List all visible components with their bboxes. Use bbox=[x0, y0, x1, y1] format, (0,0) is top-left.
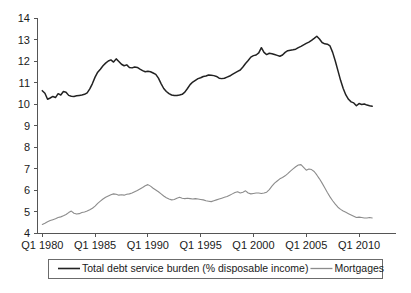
line-chart: 4567891011121314 Q1 1980Q1 1985Q1 1990Q1… bbox=[0, 0, 411, 293]
x-tick-label: Q1 1980 bbox=[21, 239, 63, 251]
y-tick-label: 5 bbox=[24, 206, 30, 218]
y-tick-label: 13 bbox=[18, 34, 30, 46]
y-tick-label: 6 bbox=[24, 184, 30, 196]
y-axis: 4567891011121314 bbox=[18, 12, 37, 239]
legend-label-mortgages: Mortgages bbox=[334, 262, 384, 274]
y-tick-label: 4 bbox=[24, 227, 30, 239]
x-axis: Q1 1980Q1 1985Q1 1990Q1 1995Q1 2000Q1 20… bbox=[21, 233, 396, 251]
chart-container: 4567891011121314 Q1 1980Q1 1985Q1 1990Q1… bbox=[0, 0, 411, 293]
x-tick-label: Q1 2005 bbox=[285, 239, 327, 251]
x-tick-label: Q1 2000 bbox=[232, 239, 274, 251]
y-tick-label: 7 bbox=[24, 163, 30, 175]
x-tick-label: Q1 1990 bbox=[127, 239, 169, 251]
legend-label-total: Total debt service burden (% disposable … bbox=[82, 262, 308, 274]
y-tick-label: 11 bbox=[19, 77, 30, 89]
x-tick-label: Q1 2010 bbox=[338, 239, 380, 251]
y-tick-label: 9 bbox=[24, 120, 30, 132]
chart-series-group bbox=[42, 36, 372, 224]
x-tick-label: Q1 1985 bbox=[74, 239, 116, 251]
x-tick-label: Q1 1995 bbox=[180, 239, 222, 251]
y-tick-label: 14 bbox=[18, 12, 30, 24]
chart-legend: Total debt service burden (% disposable … bbox=[48, 259, 384, 278]
series-line-total-debt-service-burden bbox=[42, 36, 372, 106]
y-tick-label: 8 bbox=[24, 141, 30, 153]
y-tick-label: 12 bbox=[18, 55, 30, 67]
series-line-mortgages bbox=[42, 165, 372, 225]
y-tick-label: 10 bbox=[18, 98, 30, 110]
